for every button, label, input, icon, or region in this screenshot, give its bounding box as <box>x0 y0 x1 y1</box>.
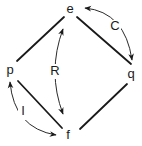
node-p: p <box>6 62 13 77</box>
node-f: f <box>66 127 70 142</box>
node-e: e <box>66 1 73 16</box>
relation-arrow-I <box>10 82 56 135</box>
edge-q-f <box>80 84 127 129</box>
relation-label-R: R <box>50 63 59 78</box>
edge-e-q <box>77 17 131 64</box>
relation-label-C: C <box>110 18 119 33</box>
relation-label-I: I <box>21 103 25 118</box>
lattice-diagram: e p q f R C I <box>0 0 142 146</box>
node-q: q <box>127 66 134 81</box>
edge-e-p <box>17 17 64 61</box>
relation-arrow-C <box>85 8 132 60</box>
